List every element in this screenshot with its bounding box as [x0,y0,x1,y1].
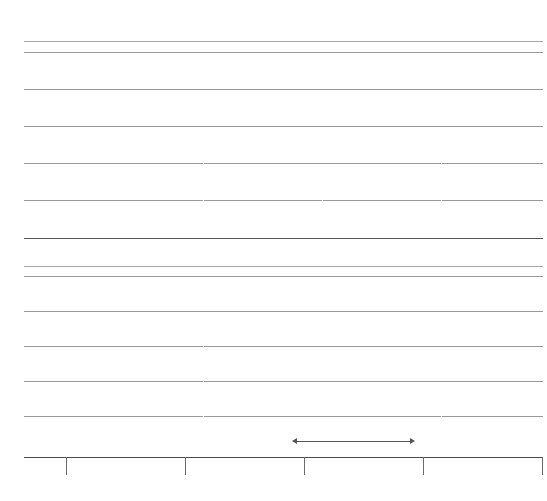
no-fluid-arrow-left-icon [292,438,297,444]
bottom-year-separator-1965 [441,400,442,457]
top-year-separator-1963 [203,150,204,238]
x-axis-divider-1965 [423,457,424,475]
bottom-year-separator-1963 [203,340,204,457]
x-axis [24,457,543,501]
top-bar-plot [66,52,542,238]
no-fluid-arrow-line [297,441,411,442]
top-year-separator-1964 [322,196,323,238]
x-axis-line [24,457,543,458]
top-bars-group [66,52,542,238]
x-axis-divider-start [66,457,67,475]
x-axis-divider-1964 [304,457,305,475]
top-frame-rule [24,41,543,42]
bottom-bar-plot [66,273,542,457]
x-axis-divider-1963 [185,457,186,475]
bottom-bars-group [66,273,542,457]
x-axis-divider-end [542,457,543,475]
bottom-frame-rule [24,266,543,267]
figure-canvas [0,0,547,501]
no-fluid-arrow-right-icon [410,438,415,444]
top-year-separator-1965 [441,150,442,238]
top-gridline-0 [24,238,543,239]
